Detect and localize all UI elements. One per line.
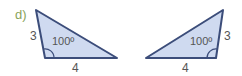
side-label-base-right: 4 — [182, 61, 189, 75]
side-label-vertical-right: 3 — [224, 29, 231, 43]
triangles-diagram: d) 3 100º 4 3 100º 4 — [0, 0, 242, 76]
angle-label-left: 100º — [52, 35, 74, 47]
side-label-vertical-left: 3 — [30, 29, 37, 43]
side-label-base-left: 4 — [72, 61, 79, 75]
part-label: d) — [15, 7, 27, 22]
triangle-right: 3 100º 4 — [146, 10, 231, 75]
triangle-left-shape — [36, 10, 117, 58]
angle-label-right: 100º — [190, 35, 212, 47]
triangle-left: 3 100º 4 — [30, 10, 117, 75]
